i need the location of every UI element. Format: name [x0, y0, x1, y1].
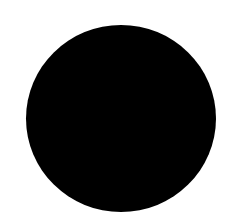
black-circle: [26, 25, 216, 212]
canvas: [0, 0, 236, 224]
